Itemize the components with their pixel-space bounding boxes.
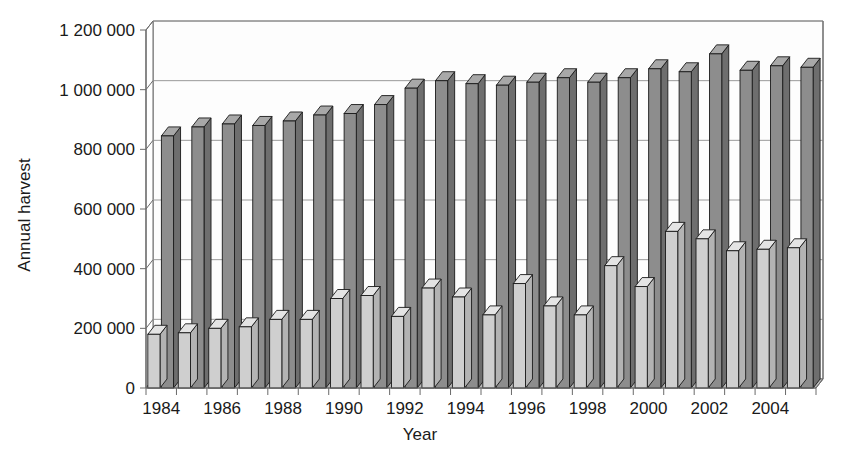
- light-bar-front: [239, 327, 251, 388]
- light-bar-front: [178, 333, 190, 388]
- x-axis-title: Year: [403, 425, 438, 444]
- x-tick-label: 1992: [386, 399, 424, 418]
- light-bar-front: [513, 284, 525, 388]
- x-tick-label: 1994: [447, 399, 485, 418]
- light-bar-side: [678, 222, 685, 388]
- light-bar-front: [300, 319, 312, 388]
- y-tick-label: 200 000: [74, 319, 135, 338]
- x-axis-tick-labels: 1984198619881990199219941996199820002002…: [142, 388, 816, 418]
- y-tick-label: 0: [126, 379, 135, 398]
- dark-bar-side: [813, 58, 820, 388]
- light-bar-side: [556, 297, 563, 388]
- light-bar-front: [726, 251, 738, 388]
- light-bar-side: [404, 307, 411, 388]
- light-bar-side: [373, 287, 380, 388]
- light-bar-front: [635, 287, 647, 388]
- x-tick-label: 1998: [569, 399, 607, 418]
- light-bar-front: [270, 319, 282, 388]
- light-bar-front: [148, 334, 160, 388]
- light-bar-front: [391, 316, 403, 388]
- light-bar-side: [769, 240, 776, 388]
- light-bar-front: [574, 315, 586, 388]
- x-tick-label: 1988: [264, 399, 302, 418]
- light-bar-side: [434, 279, 441, 388]
- light-bar-front: [544, 306, 556, 388]
- light-bar-front: [361, 296, 373, 388]
- light-bar-side: [282, 310, 289, 388]
- y-axis-tick-labels: 0200 000400 000600 000800 0001 000 0001 …: [59, 21, 135, 398]
- x-tick-label: 1990: [325, 399, 363, 418]
- light-bar-side: [221, 319, 228, 388]
- light-bar-front: [331, 299, 343, 389]
- light-bar-side: [495, 306, 502, 388]
- y-tick-label: 800 000: [74, 140, 135, 159]
- x-tick-label: 1984: [142, 399, 180, 418]
- light-bar-front: [209, 328, 221, 388]
- light-bar-side: [465, 288, 472, 388]
- light-bar-side: [343, 290, 350, 389]
- light-bar-side: [525, 275, 532, 388]
- x-tick-label: 2004: [751, 399, 789, 418]
- light-bar-front: [787, 248, 799, 388]
- y-tick-label: 600 000: [74, 200, 135, 219]
- light-bar-side: [312, 310, 319, 388]
- light-bar-front: [483, 315, 495, 388]
- light-bar-side: [586, 306, 593, 388]
- x-tick-label: 2000: [630, 399, 668, 418]
- light-bar-front: [696, 239, 708, 388]
- x-tick-label: 1996: [508, 399, 546, 418]
- light-bar-front: [666, 231, 678, 388]
- light-bar-front: [452, 297, 464, 388]
- y-axis-title: Annual harvest: [15, 158, 34, 272]
- light-bar-side: [190, 324, 197, 388]
- light-bar-front: [605, 266, 617, 388]
- light-bar-side: [647, 278, 654, 388]
- light-bar-side: [800, 239, 807, 388]
- light-bar-side: [708, 230, 715, 388]
- y-tick-label: 1 200 000: [59, 21, 135, 40]
- light-bar-side: [617, 257, 624, 388]
- light-bar-side: [160, 325, 167, 388]
- light-bar-front: [757, 249, 769, 388]
- chart-canvas: 0200 000400 000600 000800 0001 000 0001 …: [0, 0, 845, 458]
- bar-chart: 0200 000400 000600 000800 0001 000 0001 …: [0, 0, 845, 458]
- y-tick-label: 1 000 000: [59, 81, 135, 100]
- x-tick-label: 1986: [203, 399, 241, 418]
- light-bar-front: [422, 288, 434, 388]
- y-tick-label: 400 000: [74, 260, 135, 279]
- light-bar-side: [251, 318, 258, 388]
- light-bar-side: [739, 242, 746, 388]
- x-tick-label: 2002: [690, 399, 728, 418]
